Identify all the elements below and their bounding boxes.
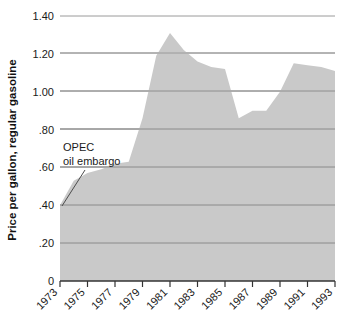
x-tick-label: 1973 — [34, 286, 60, 312]
y-tick-label: .40 — [39, 199, 54, 211]
chart-canvas: 1.401.201.00.80.60.40.200 19731975197719… — [0, 0, 354, 326]
annotation-line-2: oil embargo — [63, 155, 120, 167]
x-tick-label: 1991 — [281, 286, 307, 312]
x-tick-label: 1983 — [171, 286, 197, 312]
gasoline-price-area-chart: 1.401.201.00.80.60.40.200 19731975197719… — [0, 0, 354, 326]
x-tick-label: 1977 — [89, 286, 115, 312]
x-axis-ticks — [60, 281, 335, 287]
x-tick-label: 1985 — [199, 286, 225, 312]
y-tick-label: 1.40 — [33, 10, 54, 22]
x-tick-label: 1989 — [254, 286, 280, 312]
y-tick-label: .80 — [39, 124, 54, 136]
x-tick-label: 1979 — [116, 286, 142, 312]
y-tick-label: 0 — [48, 275, 54, 287]
y-tick-label: .20 — [39, 237, 54, 249]
y-axis-tick-labels: 1.401.201.00.80.60.40.200 — [33, 10, 54, 287]
x-tick-label: 1975 — [61, 286, 87, 312]
x-axis-tick-labels: 1973197519771979198119831985198719891991… — [34, 286, 335, 312]
y-tick-label: .60 — [39, 161, 54, 173]
y-axis-title: Price per gallon, regular gasoline — [6, 59, 18, 241]
y-tick-label: 1.20 — [33, 48, 54, 60]
x-tick-label: 1987 — [226, 286, 252, 312]
annotation-line-1: OPEC — [63, 141, 94, 153]
x-tick-label: 1993 — [309, 286, 335, 312]
x-tick-label: 1981 — [144, 286, 170, 312]
y-tick-label: 1.00 — [33, 86, 54, 98]
